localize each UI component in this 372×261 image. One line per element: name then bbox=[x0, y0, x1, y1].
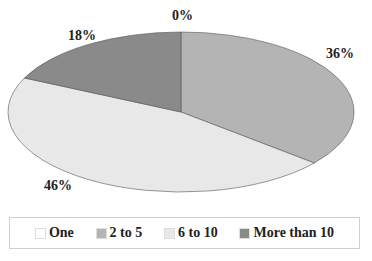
legend-swatch-one bbox=[35, 228, 46, 239]
legend-item-more-than-10: More than 10 bbox=[239, 225, 334, 241]
pie-slices bbox=[8, 32, 354, 192]
legend-swatch-6-to-10 bbox=[164, 228, 175, 239]
label-more-than-10: 18% bbox=[68, 28, 96, 43]
chart-legend: One 2 to 5 6 to 10 More than 10 bbox=[9, 217, 360, 249]
legend-label: More than 10 bbox=[253, 225, 334, 241]
legend-item-6-to-10: 6 to 10 bbox=[164, 225, 218, 241]
legend-label: One bbox=[49, 225, 74, 241]
legend-swatch-more-than-10 bbox=[239, 228, 250, 239]
label-6-to-10: 46% bbox=[44, 178, 72, 193]
label-one: 0% bbox=[172, 8, 193, 23]
legend-label: 2 to 5 bbox=[110, 225, 143, 241]
legend-item-one: One bbox=[35, 225, 74, 241]
legend-item-2-to-5: 2 to 5 bbox=[96, 225, 143, 241]
pie-chart: 0% 36% 46% 18% bbox=[0, 0, 372, 215]
legend-swatch-2-to-5 bbox=[96, 228, 107, 239]
legend-label: 6 to 10 bbox=[178, 225, 218, 241]
label-2-to-5: 36% bbox=[326, 46, 354, 61]
